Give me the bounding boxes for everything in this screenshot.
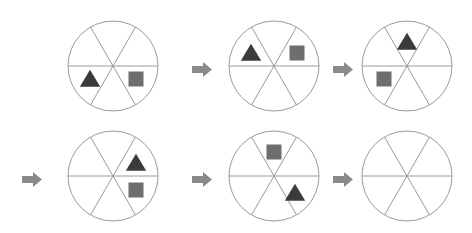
square-icon bbox=[129, 183, 144, 198]
square-icon bbox=[377, 72, 392, 87]
right-arrow-icon-tail bbox=[333, 66, 344, 73]
sequence-puzzle-canvas bbox=[0, 0, 472, 233]
circle-step-2[interactable] bbox=[229, 21, 319, 111]
arrow-row-wrap bbox=[22, 172, 42, 187]
triangle-icon bbox=[285, 184, 305, 201]
square-icon bbox=[267, 145, 282, 160]
triangle-icon bbox=[126, 154, 146, 171]
right-arrow-icon-head bbox=[33, 172, 42, 187]
right-arrow-icon-head bbox=[344, 172, 353, 187]
square-icon bbox=[290, 46, 305, 61]
right-arrow-icon-head bbox=[203, 172, 212, 187]
square-icon bbox=[129, 72, 144, 87]
arrow-step-5-to-6 bbox=[333, 172, 353, 187]
right-arrow-icon-tail bbox=[333, 176, 344, 183]
right-arrow-icon-tail bbox=[192, 66, 203, 73]
circle-step-1[interactable] bbox=[68, 21, 158, 111]
arrow-step-1-to-2 bbox=[192, 62, 212, 77]
puzzle-stage bbox=[0, 0, 472, 233]
circle-step-3[interactable] bbox=[362, 21, 452, 111]
arrow-step-2-to-3 bbox=[333, 62, 353, 77]
triangle-icon bbox=[397, 33, 417, 50]
triangle-icon bbox=[80, 70, 100, 87]
circle-answer-slot[interactable] bbox=[362, 131, 452, 221]
circle-step-5[interactable] bbox=[229, 131, 319, 221]
triangle-icon bbox=[241, 44, 261, 61]
right-arrow-icon-head bbox=[344, 62, 353, 77]
right-arrow-icon-tail bbox=[192, 176, 203, 183]
arrow-step-4-to-5 bbox=[192, 172, 212, 187]
right-arrow-icon-tail bbox=[22, 176, 33, 183]
right-arrow-icon-head bbox=[203, 62, 212, 77]
circle-step-4[interactable] bbox=[68, 131, 158, 221]
